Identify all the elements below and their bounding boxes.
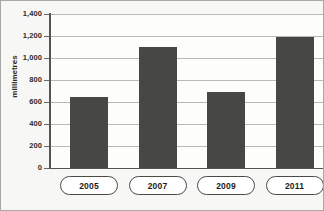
bar-2007 — [139, 47, 177, 168]
y-tick-label-200: 200 — [0, 141, 42, 150]
x-category-2009: 2009 — [197, 176, 255, 195]
y-tick-label-1400: 1,400 — [0, 9, 42, 18]
x-category-2011: 2011 — [266, 176, 324, 195]
x-axis-category-labels: 2005200720092011 — [50, 176, 324, 202]
chart-page: 1,4001,2001,0008006004002000 millimetres… — [0, 0, 324, 211]
y-tick-label-800: 800 — [0, 75, 42, 84]
bar-2009 — [207, 92, 245, 168]
y-tick-label-400: 400 — [0, 119, 42, 128]
x-category-2005: 2005 — [60, 176, 118, 195]
y-tick-label-0: 0 — [0, 163, 42, 172]
bar-2011 — [276, 37, 314, 168]
x-category-2007: 2007 — [129, 176, 187, 195]
bar-2005 — [70, 97, 108, 168]
y-axis-title: millimetres — [10, 32, 19, 122]
y-tick-label-600: 600 — [0, 97, 42, 106]
y-tick-label-1200: 1,200 — [0, 31, 42, 40]
y-tick-label-1000: 1,000 — [0, 53, 42, 62]
